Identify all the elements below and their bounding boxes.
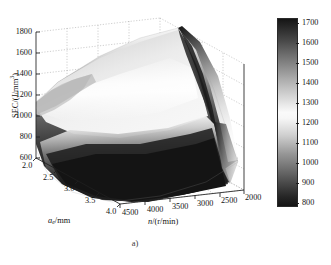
colorbar-label-1200: 1200 (302, 119, 318, 127)
colorbar: 1700 1600 1500 1400 1300 1200 1100 1000 … (277, 18, 331, 210)
surface-plot-area: 1800 1600 1400 1200 1000 800 600 2.0 2.5… (0, 12, 270, 227)
colorbar-label-1100: 1100 (302, 139, 318, 147)
ae-tick-4p0: 4.0 (106, 208, 116, 216)
n-tick-2000: 2000 (245, 194, 261, 202)
colorbar-tickmark (296, 23, 299, 24)
colorbar-tickmark (296, 63, 299, 64)
colorbar-gradient (277, 18, 298, 207)
z-axis-label-close: ) (11, 73, 20, 76)
colorbar-label-800: 800 (302, 199, 314, 207)
colorbar-tickmark (296, 123, 299, 124)
z-tick-1600: 1600 (0, 49, 32, 57)
colorbar-tickmark (296, 183, 299, 184)
colorbar-label-1300: 1300 (302, 99, 318, 107)
cropped-caption-strip (4, 0, 154, 12)
colorbar-label-1400: 1400 (302, 79, 318, 87)
colorbar-tickmark (296, 83, 299, 84)
colorbar-tickmark (296, 163, 299, 164)
z-axis-label: SEC/(J/mm3) (9, 58, 20, 134)
colorbar-tickmark (296, 143, 299, 144)
surface-mesh (36, 26, 238, 202)
n-tick-3500: 3500 (172, 203, 188, 211)
figure-subcaption: a) (0, 238, 270, 248)
z-axis-label-main: SEC (11, 103, 20, 118)
figure-root: 1800 1600 1400 1200 1000 800 600 2.0 2.5… (0, 0, 331, 265)
colorbar-label-1000: 1000 (302, 159, 318, 167)
z-axis-label-unit: /(J/mm (11, 79, 20, 103)
z-axis-label-exponent: 3 (9, 76, 15, 79)
n-tick-3000: 3000 (197, 200, 213, 208)
ae-axis-label: ae/mm (48, 216, 70, 225)
n-axis-label: n/(r/min) (148, 217, 178, 226)
colorbar-label-1600: 1600 (302, 39, 318, 47)
n-tick-2500: 2500 (221, 197, 237, 205)
colorbar-tickmark (296, 203, 299, 204)
ae-axis-label-unit: /mm (55, 216, 70, 225)
surface-plot-canvas (0, 12, 270, 227)
ae-tick-3p0: 3.0 (64, 185, 74, 193)
z-tick-800: 800 (0, 133, 32, 141)
n-tick-4500: 4500 (122, 209, 138, 217)
ae-tick-2p5: 2.5 (43, 174, 53, 182)
n-tick-4000: 4000 (147, 206, 163, 214)
colorbar-label-900: 900 (302, 179, 314, 187)
colorbar-label-1500: 1500 (302, 59, 318, 67)
ae-tick-2p0: 2.0 (22, 162, 32, 170)
ae-tick-3p5: 3.5 (85, 197, 95, 205)
n-axis-label-unit: /(r/min) (152, 217, 178, 226)
colorbar-tickmark (296, 43, 299, 44)
colorbar-tickmark (296, 103, 299, 104)
colorbar-label-1700: 1700 (302, 19, 318, 27)
z-tick-1800: 1800 (0, 28, 32, 36)
